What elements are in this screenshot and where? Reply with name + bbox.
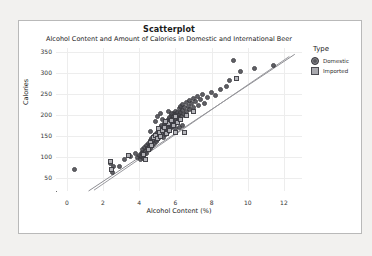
x-tick-label: 12 bbox=[272, 200, 296, 206]
data-point-imported bbox=[191, 109, 196, 114]
legend-entries: DomesticImported bbox=[311, 57, 372, 75]
scatterplot-screenshot: Scatterplot Alcohol Content and Amount o… bbox=[0, 0, 372, 256]
chart-panel: Scatterplot Alcohol Content and Amount o… bbox=[18, 20, 362, 234]
data-point-domestic bbox=[153, 119, 158, 124]
data-point-domestic bbox=[117, 164, 122, 169]
data-point-imported bbox=[109, 167, 114, 172]
square-marker-icon bbox=[311, 67, 319, 75]
chart-subtitle: Alcohol Content and Amount of Calories i… bbox=[19, 35, 319, 43]
x-axis-title: Alcohol Content (%) bbox=[56, 207, 302, 215]
data-point-imported bbox=[156, 126, 161, 131]
legend: Type DomesticImported bbox=[311, 45, 372, 77]
x-tick-label: 6 bbox=[163, 200, 187, 206]
y-tick-label: 50 bbox=[30, 175, 52, 181]
data-point-imported bbox=[173, 130, 178, 135]
data-point-imported bbox=[178, 117, 183, 122]
data-point-domestic bbox=[231, 58, 236, 63]
y-axis-title: Calories bbox=[22, 79, 30, 105]
chart-title: Scatterplot bbox=[19, 25, 319, 34]
y-tick-label: 200 bbox=[30, 112, 52, 118]
legend-item-label: Imported bbox=[323, 68, 348, 74]
data-point-domestic bbox=[213, 93, 218, 98]
data-point-domestic bbox=[224, 84, 229, 89]
legend-item-domestic[interactable]: Domestic bbox=[311, 57, 372, 65]
legend-item-imported[interactable]: Imported bbox=[311, 67, 372, 75]
y-tick-label: 250 bbox=[30, 91, 52, 97]
x-tick-label: 0 bbox=[55, 200, 79, 206]
data-point-imported bbox=[173, 114, 178, 119]
data-point-imported bbox=[108, 159, 113, 164]
x-tick-label: 2 bbox=[91, 200, 115, 206]
x-tick-label: 4 bbox=[127, 200, 151, 206]
data-point-domestic bbox=[200, 92, 205, 97]
data-point-imported bbox=[158, 134, 163, 139]
y-tick-label: 350 bbox=[30, 49, 52, 55]
data-point-imported bbox=[149, 143, 154, 148]
trend-line bbox=[94, 56, 289, 190]
data-point-imported bbox=[143, 157, 148, 162]
y-tick-label: 100 bbox=[30, 154, 52, 160]
data-point-imported bbox=[182, 130, 187, 135]
data-point-imported bbox=[234, 76, 239, 81]
trend-line bbox=[89, 54, 295, 191]
data-point-imported bbox=[126, 153, 131, 158]
legend-item-label: Domestic bbox=[323, 58, 349, 64]
data-point-domestic bbox=[271, 63, 276, 68]
data-point-domestic bbox=[202, 101, 207, 106]
circle-marker-icon bbox=[311, 57, 319, 65]
data-point-domestic bbox=[148, 129, 153, 134]
x-tick-label: 8 bbox=[200, 200, 224, 206]
data-point-domestic bbox=[238, 69, 243, 74]
legend-title: Type bbox=[311, 45, 372, 53]
y-tick-label: 150 bbox=[30, 133, 52, 139]
y-tick-label: 300 bbox=[30, 70, 52, 76]
data-point-domestic bbox=[218, 87, 223, 92]
data-point-imported bbox=[163, 119, 168, 124]
plot-area bbox=[56, 48, 302, 191]
x-tick-label: 10 bbox=[236, 200, 260, 206]
data-point-imported bbox=[184, 113, 189, 118]
